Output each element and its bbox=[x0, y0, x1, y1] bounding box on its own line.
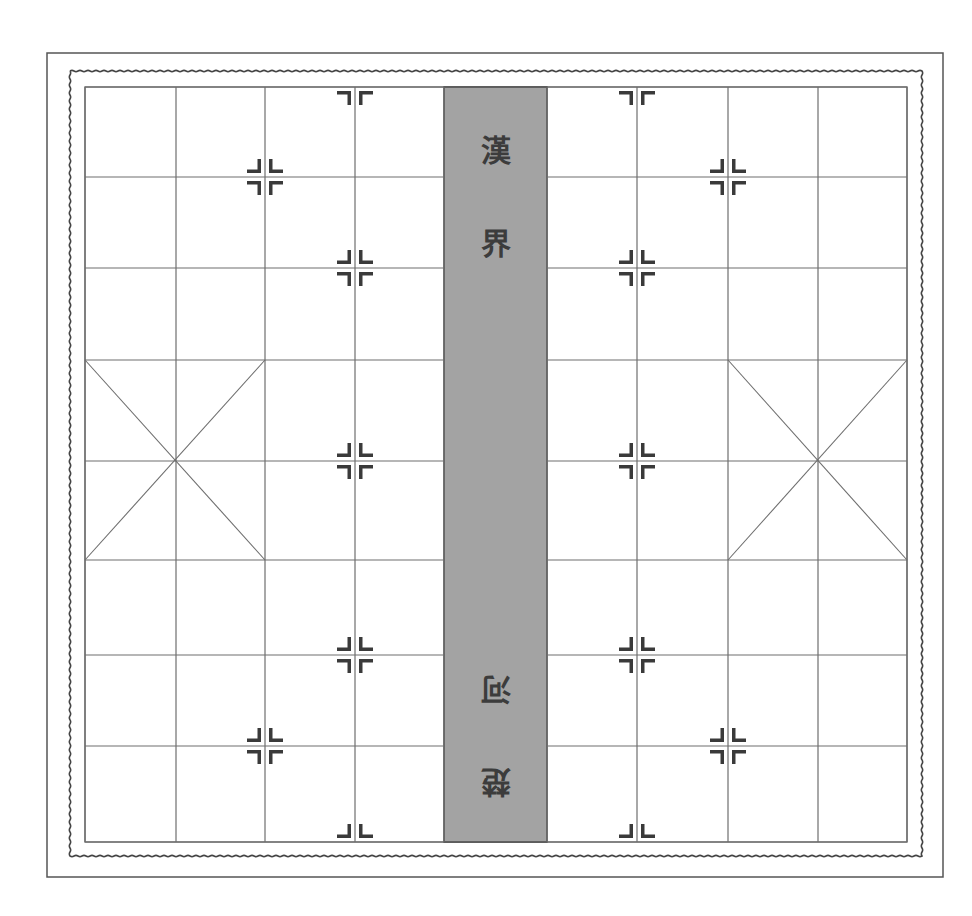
marker-arm bbox=[732, 728, 736, 742]
marker-arm bbox=[359, 272, 363, 286]
marker-arm bbox=[641, 659, 645, 673]
marker-arm bbox=[721, 181, 725, 195]
marker-arm bbox=[721, 750, 725, 764]
marker-arm bbox=[359, 824, 363, 838]
marker-arm bbox=[630, 824, 634, 838]
marker-arm bbox=[348, 443, 352, 457]
river-rect bbox=[444, 87, 547, 842]
marker-arm bbox=[269, 181, 273, 195]
left-palace bbox=[85, 360, 265, 560]
river-band bbox=[444, 87, 547, 842]
marker-arm bbox=[359, 465, 363, 479]
marker-arm bbox=[348, 824, 352, 838]
river-char-upper: 漢 bbox=[481, 133, 512, 168]
marker-arm bbox=[269, 728, 273, 742]
marker-arm bbox=[348, 250, 352, 264]
marker-arm bbox=[348, 659, 352, 673]
marker-arm bbox=[630, 637, 634, 651]
marker-arm bbox=[721, 728, 725, 742]
marker-arm bbox=[258, 750, 262, 764]
marker-arm bbox=[721, 159, 725, 173]
marker-arm bbox=[630, 272, 634, 286]
marker-arm bbox=[359, 91, 363, 105]
marker-arm bbox=[641, 824, 645, 838]
marker-arm bbox=[359, 250, 363, 264]
marker-arm bbox=[258, 159, 262, 173]
marker-arm bbox=[269, 750, 273, 764]
marker-arm bbox=[348, 637, 352, 651]
marker-arm bbox=[258, 181, 262, 195]
marker-arm bbox=[359, 637, 363, 651]
river-char-upper: 界 bbox=[481, 226, 511, 261]
river-char-lower: 河 bbox=[481, 672, 511, 707]
marker-arm bbox=[641, 465, 645, 479]
marker-arm bbox=[641, 637, 645, 651]
marker-arm bbox=[630, 443, 634, 457]
marker-arm bbox=[641, 91, 645, 105]
marker-arm bbox=[630, 659, 634, 673]
marker-arm bbox=[732, 750, 736, 764]
marker-arm bbox=[630, 91, 634, 105]
marker-arm bbox=[269, 159, 273, 173]
marker-arm bbox=[348, 272, 352, 286]
marker-arm bbox=[641, 443, 645, 457]
marker-arm bbox=[732, 159, 736, 173]
marker-arm bbox=[641, 272, 645, 286]
river-char-lower: 楚 bbox=[481, 765, 511, 800]
marker-arm bbox=[359, 659, 363, 673]
marker-arm bbox=[630, 465, 634, 479]
marker-arm bbox=[641, 250, 645, 264]
xiangqi-board: 漢界河楚 bbox=[0, 0, 972, 916]
marker-arm bbox=[359, 443, 363, 457]
marker-arm bbox=[348, 465, 352, 479]
marker-arm bbox=[732, 181, 736, 195]
marker-arm bbox=[348, 91, 352, 105]
marker-arm bbox=[630, 250, 634, 264]
marker-arm bbox=[258, 728, 262, 742]
